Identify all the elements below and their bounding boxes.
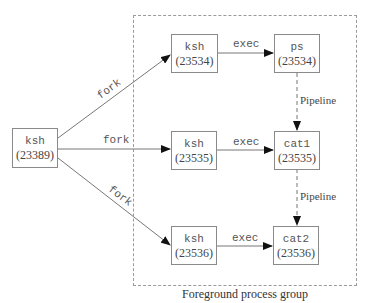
child-process-box-1: ksh (23534) (171, 34, 218, 73)
process-pid: (23534) (172, 54, 217, 68)
process-group-diagram: Foreground process group ksh (23389) ksh… (0, 0, 367, 303)
process-pid: (23534) (275, 54, 319, 68)
process-pid: (23389) (13, 148, 57, 162)
exec-label-1: exec (233, 38, 259, 50)
process-pid: (23536) (172, 246, 216, 260)
process-pid: (23536) (274, 246, 318, 260)
pipeline-label-2: Pipeline (300, 190, 336, 202)
process-name: cat2 (274, 233, 318, 246)
process-name: ksh (172, 41, 217, 54)
process-name: ps (275, 41, 319, 54)
process-name: ksh (172, 138, 216, 151)
fork-label-2: fork (103, 134, 129, 146)
exec-label-2: exec (233, 136, 259, 148)
pipeline-label-1: Pipeline (300, 94, 336, 106)
group-caption: Foreground process group (133, 287, 357, 302)
exec-process-box-ps: ps (23534) (274, 34, 320, 73)
exec-label-3: exec (232, 232, 258, 244)
exec-process-box-cat2: cat2 (23536) (273, 226, 319, 265)
child-process-box-3: ksh (23536) (171, 226, 217, 265)
exec-process-box-cat1: cat1 (23535) (274, 131, 320, 170)
process-name: ksh (13, 135, 57, 148)
child-process-box-2: ksh (23535) (171, 131, 217, 170)
process-pid: (23535) (275, 151, 319, 165)
process-name: ksh (172, 233, 216, 246)
foreground-process-group-boundary (133, 15, 357, 286)
process-name: cat1 (275, 138, 319, 151)
process-pid: (23535) (172, 151, 216, 165)
parent-process-box: ksh (23389) (12, 128, 58, 168)
